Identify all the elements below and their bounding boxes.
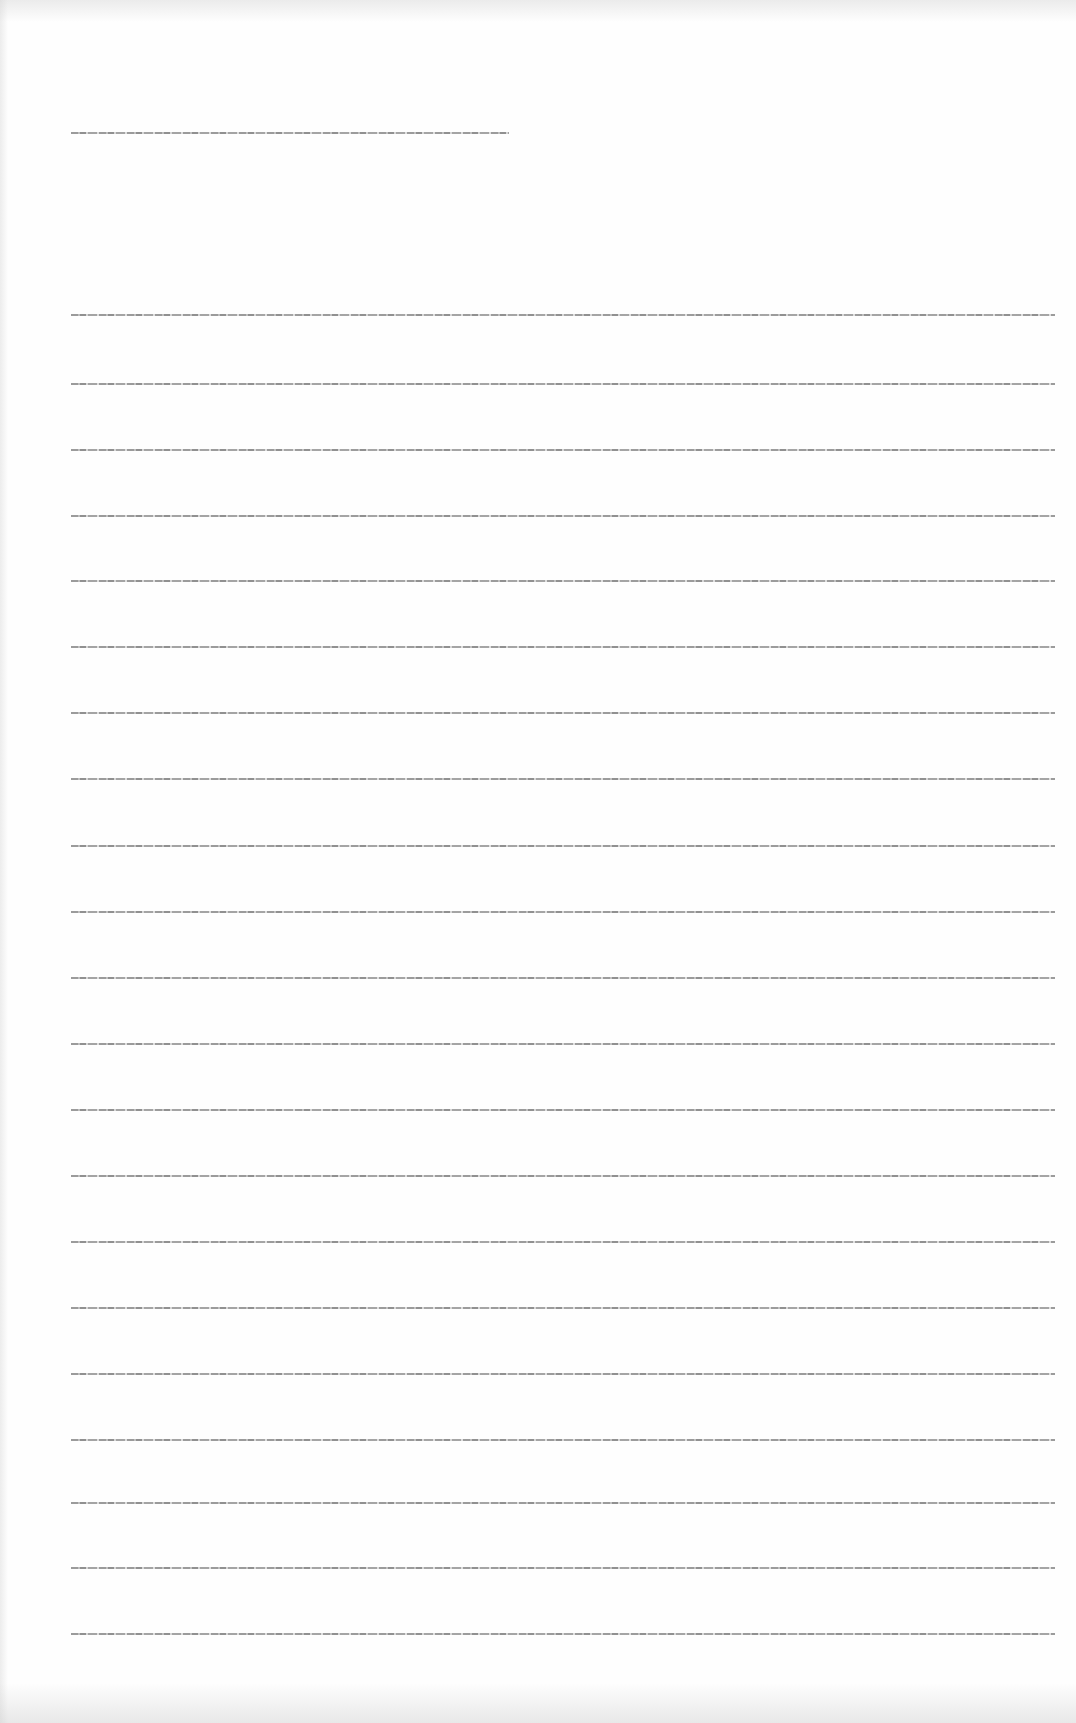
text-line: [illegible] bbox=[71, 1439, 1055, 1441]
text-line: [illegible] bbox=[71, 778, 1055, 780]
text-line: [illegible] bbox=[71, 845, 1055, 847]
text-line: [illegible] bbox=[71, 580, 1055, 582]
document-page: [illegible] [illegible] [illegible] [ill… bbox=[0, 0, 1076, 1723]
text-line: [illegible] bbox=[71, 911, 1055, 913]
body-text: [illegible] [illegible] [illegible] [ill… bbox=[0, 0, 1076, 1723]
text-line: [illegible] bbox=[71, 1567, 1055, 1569]
text-line: [illegible] bbox=[71, 1502, 1055, 1504]
text-line: [illegible] bbox=[71, 314, 1055, 316]
text-line: [illegible] bbox=[71, 1373, 1055, 1375]
text-line: [illegible] bbox=[71, 1633, 1055, 1635]
text-line: [illegible] bbox=[71, 646, 1055, 648]
text-line: [illegible] bbox=[71, 712, 1055, 714]
text-line: [illegible] bbox=[71, 449, 1055, 451]
text-line: [illegible] bbox=[71, 1043, 1055, 1045]
text-line: [illegible] bbox=[71, 1175, 1055, 1177]
text-line: [illegible] bbox=[71, 1307, 1055, 1309]
text-line: [illegible] bbox=[71, 977, 1055, 979]
text-line: [illegible] bbox=[71, 383, 1055, 385]
text-line: [illegible] bbox=[71, 515, 1055, 517]
text-line: [illegible] bbox=[71, 1241, 1055, 1243]
text-line: [illegible] bbox=[71, 1109, 1055, 1111]
